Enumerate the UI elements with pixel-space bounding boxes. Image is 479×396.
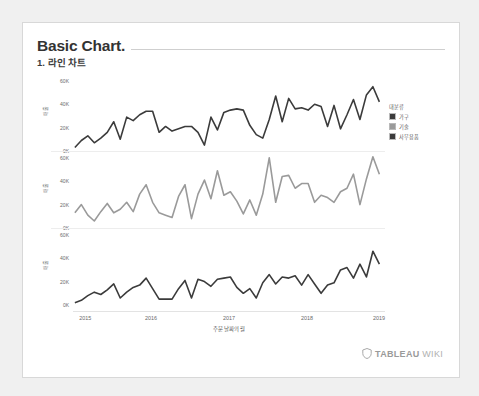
chart-panels: 0K20K40K60K0K20K40K60K0K20K40K60K [51, 75, 385, 305]
y-axis-tick-label: 20K [60, 279, 69, 285]
legend: 대분류 가구기술사무용품 [389, 103, 455, 143]
panel-plot-area [73, 229, 385, 305]
x-axis-tick-label: 2018 [301, 315, 313, 321]
y-axis-tick-label: 0K [63, 302, 69, 308]
title-row: Basic Chart. [37, 33, 445, 53]
legend-item-label: 기술 [399, 123, 409, 130]
y-axis-title: 매출 [37, 261, 51, 268]
y-axis-ticks: 0K20K40K60K [51, 229, 71, 305]
y-axis-tick-label: 40K [60, 255, 69, 261]
legend-item[interactable]: 기술 [389, 123, 455, 130]
y-axis-title: 매출 [37, 184, 51, 191]
x-axis-tick-label: 2016 [145, 315, 157, 321]
title-divider [131, 49, 445, 50]
y-axis-tick-label: 40K [60, 178, 69, 184]
x-axis-tick-label: 2015 [79, 315, 91, 321]
legend-item-label: 사무용품 [399, 133, 419, 140]
series-line [75, 157, 380, 221]
brand-name: TABLEAU WIKI [375, 349, 443, 359]
legend-items: 가구기술사무용품 [389, 113, 455, 140]
y-axis-tick-label: 20K [60, 125, 69, 131]
y-axis-ticks: 0K20K40K60K [51, 152, 71, 228]
brand-footer: TABLEAU WIKI [362, 345, 443, 363]
legend-swatch [389, 113, 396, 120]
panel-plot-area [73, 152, 385, 228]
x-axis-tick-label: 2017 [223, 315, 235, 321]
x-axis: 20152016201720182019 [73, 311, 385, 326]
series-line [75, 87, 380, 148]
y-axis-tick-label: 60K [60, 78, 69, 84]
chart-panel: 0K20K40K60K [51, 228, 385, 305]
y-axis-tick-label: 20K [60, 202, 69, 208]
chart-panel: 0K20K40K60K [51, 151, 385, 228]
shield-icon [362, 345, 372, 363]
report-card: Basic Chart. 1. 라인 차트 대분류 가구기술사무용품 매출매출매… [22, 22, 460, 378]
x-axis-title: 주문 날짜의 월 [73, 325, 385, 333]
legend-swatch [389, 133, 396, 140]
y-axis-tick-label: 60K [60, 155, 69, 161]
legend-item[interactable]: 가구 [389, 113, 455, 120]
legend-title: 대분류 [389, 103, 455, 110]
section-subtitle: 1. 라인 차트 [37, 55, 86, 69]
x-axis-tick-label: 2019 [373, 315, 385, 321]
legend-item[interactable]: 사무용품 [389, 133, 455, 140]
chart-panel: 0K20K40K60K [51, 75, 385, 151]
panel-plot-area [73, 75, 385, 151]
series-line [75, 251, 380, 302]
legend-swatch [389, 123, 396, 130]
y-axis-title: 매출 [37, 107, 51, 114]
y-axis-tick-label: 60K [60, 232, 69, 238]
y-axis-ticks: 0K20K40K60K [51, 75, 71, 151]
line-chart: 매출매출매출 0K20K40K60K0K20K40K60K0K20K40K60K… [37, 75, 385, 360]
page-title: Basic Chart. [37, 38, 125, 54]
y-axis-tick-label: 40K [60, 101, 69, 107]
legend-item-label: 가구 [399, 113, 409, 120]
y-axis-titles: 매출매출매출 [37, 75, 51, 311]
